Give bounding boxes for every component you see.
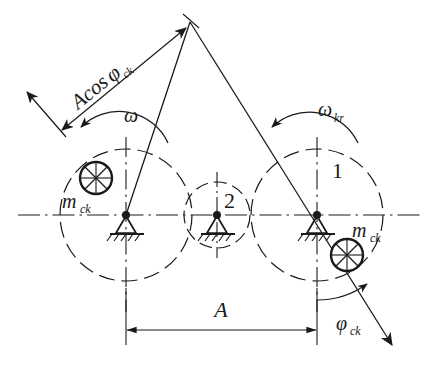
left-mass-label: m ck bbox=[62, 190, 91, 216]
projection-extension-leader bbox=[27, 92, 66, 137]
span-dimension-group: A bbox=[126, 288, 317, 345]
left-ground-hatching bbox=[107, 234, 140, 241]
diagram-root: Acos φ ck ω ω kr 1 2 m ck bbox=[0, 0, 439, 365]
angle-phi-label-base: φ bbox=[336, 312, 347, 335]
span-dimension-label: A bbox=[212, 297, 228, 322]
left-mass-label-base: m bbox=[62, 190, 76, 212]
left-rotor-group bbox=[60, 137, 192, 312]
right-mass-label-base: m bbox=[352, 219, 366, 241]
projection-apex-tick bbox=[183, 14, 199, 28]
rotor-2-label: 2 bbox=[224, 188, 235, 213]
right-omega-label-subscript: kr bbox=[334, 111, 344, 125]
mechanical-schematic-svg: Acos φ ck ω ω kr 1 2 m ck bbox=[0, 0, 439, 365]
left-omega-arc-group: ω bbox=[81, 104, 168, 143]
rotor-1-label: 1 bbox=[332, 158, 343, 183]
angle-phi-label-subscript: ck bbox=[350, 324, 361, 338]
right-omega-label-base: ω bbox=[318, 98, 332, 120]
center-ground-hatching bbox=[198, 234, 231, 241]
right-omega-arc-group: ω kr bbox=[272, 98, 358, 143]
right-omega-arc bbox=[272, 112, 358, 143]
left-mass-group bbox=[80, 162, 112, 194]
left-omega-label: ω bbox=[124, 104, 138, 126]
right-mass-label-subscript: ck bbox=[370, 231, 381, 245]
right-ground-hatching bbox=[298, 234, 331, 241]
right-mass-group bbox=[331, 239, 363, 271]
left-mass-label-subscript: ck bbox=[80, 202, 91, 216]
